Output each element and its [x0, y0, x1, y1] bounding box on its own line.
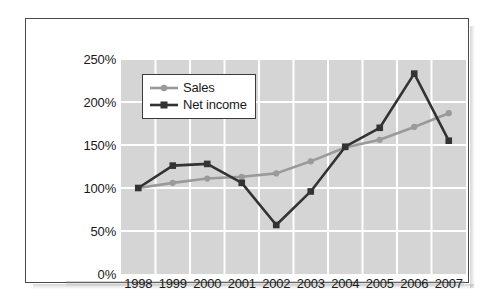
x-tick-label: 2007 [426, 277, 472, 290]
data-point [135, 185, 142, 192]
data-point [446, 110, 452, 116]
data-point [445, 137, 452, 144]
legend-label-net-income: Net income [183, 98, 247, 111]
legend-item-net-income: Net income [149, 96, 247, 113]
y-tick-label: 250% [58, 53, 116, 66]
data-point [204, 175, 210, 181]
data-point [170, 180, 176, 186]
data-point [411, 70, 418, 77]
y-tick-label: 0% [58, 268, 116, 281]
data-point [411, 124, 417, 130]
y-tick-label: 50% [58, 225, 116, 238]
data-point [273, 170, 279, 176]
x-axis-tick-labels: 1998199920002001200220032004200520062007 [121, 277, 466, 297]
data-point [377, 137, 383, 143]
data-point [169, 162, 176, 169]
data-point [308, 158, 314, 164]
data-point [238, 180, 245, 187]
legend-label-sales: Sales [183, 81, 215, 94]
y-axis-tick-labels: 0%50%100%150%200%250% [56, 59, 116, 274]
chart-frame: 0%50%100%150%200%250% 199819992000200120… [25, 18, 469, 283]
data-point [307, 188, 314, 195]
legend-item-sales: Sales [149, 79, 247, 96]
chart-figure: 0%50%100%150%200%250% 199819992000200120… [0, 0, 496, 302]
legend-swatch-sales [149, 81, 179, 95]
legend-line-net-income-icon [149, 98, 179, 112]
data-point [239, 174, 245, 180]
data-point [342, 143, 349, 150]
y-tick-label: 150% [58, 139, 116, 152]
legend-swatch-net-income [149, 98, 179, 112]
y-tick-label: 200% [58, 96, 116, 109]
figure-shadow-right [470, 26, 475, 288]
legend-line-sales-icon [149, 81, 179, 95]
data-point [204, 161, 211, 168]
data-point [273, 222, 280, 229]
y-tick-label: 100% [58, 182, 116, 195]
chart-legend: Sales Net income [142, 74, 256, 119]
data-point [376, 125, 383, 132]
